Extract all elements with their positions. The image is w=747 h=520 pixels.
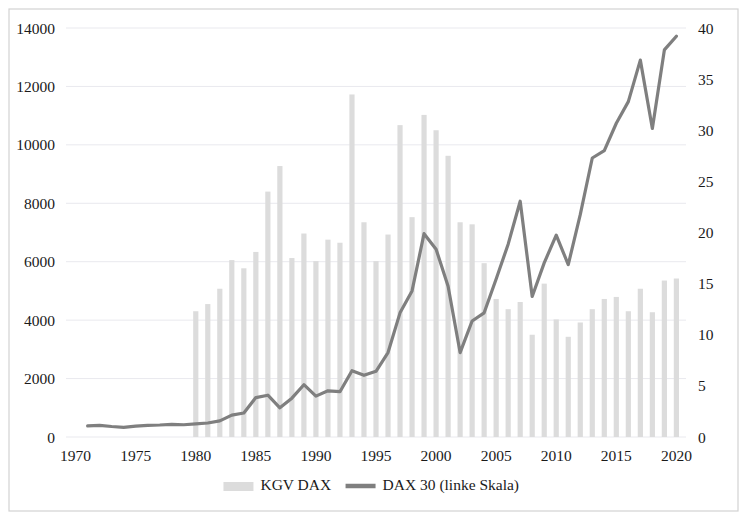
bar bbox=[325, 240, 330, 437]
bar bbox=[590, 309, 595, 437]
left-axis-tick-label: 6000 bbox=[24, 253, 55, 270]
bar bbox=[650, 312, 655, 437]
left-axis-tick-label: 8000 bbox=[24, 195, 55, 212]
bar bbox=[578, 322, 583, 437]
right-axis-tick-label: 10 bbox=[698, 326, 714, 343]
bar bbox=[530, 335, 535, 437]
left-axis-tick-label: 14000 bbox=[16, 20, 55, 37]
left-axis-tick-label: 12000 bbox=[16, 78, 55, 95]
bar bbox=[361, 222, 366, 437]
bar bbox=[301, 234, 306, 437]
bar bbox=[638, 289, 643, 437]
bar bbox=[542, 284, 547, 437]
bar bbox=[566, 337, 571, 437]
bar bbox=[674, 279, 679, 437]
x-axis-tick-label: 2000 bbox=[421, 447, 452, 464]
left-axis-tick-label: 2000 bbox=[24, 370, 55, 387]
x-axis-tick-label: 2010 bbox=[541, 447, 572, 464]
bar bbox=[602, 299, 607, 437]
bar bbox=[409, 217, 414, 437]
x-axis-tick-label: 1975 bbox=[120, 447, 151, 464]
bar bbox=[253, 252, 258, 437]
right-axis-tick-label: 40 bbox=[698, 20, 714, 37]
bar bbox=[337, 243, 342, 437]
right-axis-tick-label: 30 bbox=[698, 122, 714, 139]
right-axis-tick-label: 0 bbox=[698, 429, 706, 446]
bar bbox=[421, 115, 426, 437]
x-axis-tick-label: 1970 bbox=[60, 447, 91, 464]
bar bbox=[433, 130, 438, 437]
x-axis-tick-label: 1985 bbox=[240, 447, 271, 464]
x-axis-tick-label: 2005 bbox=[481, 447, 512, 464]
bar bbox=[494, 299, 499, 437]
bar bbox=[614, 297, 619, 437]
bar bbox=[470, 224, 475, 437]
bar bbox=[277, 166, 282, 437]
bar bbox=[229, 260, 234, 437]
x-axis-tick-label: 1995 bbox=[361, 447, 392, 464]
chart-figure: 02000400060008000100001200014000 0510152… bbox=[0, 0, 747, 520]
bar bbox=[349, 94, 354, 437]
bar bbox=[385, 235, 390, 437]
bar bbox=[217, 289, 222, 437]
bar bbox=[397, 125, 402, 437]
right-axis-tick-label: 35 bbox=[698, 71, 714, 88]
left-axis-tick-label: 4000 bbox=[24, 312, 55, 329]
bar bbox=[265, 192, 270, 437]
right-axis-tick-label: 15 bbox=[698, 275, 714, 292]
bar bbox=[626, 311, 631, 437]
right-axis-tick-label: 25 bbox=[698, 173, 714, 190]
legend-label: DAX 30 (linke Skala) bbox=[383, 476, 519, 494]
bar bbox=[554, 319, 559, 437]
bar bbox=[518, 302, 523, 437]
left-axis-tick-label: 0 bbox=[47, 429, 55, 446]
legend-swatch-bar bbox=[223, 482, 253, 491]
bar bbox=[373, 261, 378, 437]
left-axis-tick-label: 10000 bbox=[16, 136, 55, 153]
bar bbox=[313, 261, 318, 437]
x-axis-tick-label: 2015 bbox=[601, 447, 632, 464]
bar bbox=[506, 309, 511, 437]
chart-canvas: 02000400060008000100001200014000 0510152… bbox=[0, 0, 747, 520]
bar bbox=[458, 222, 463, 437]
x-axis-tick-label: 1980 bbox=[180, 447, 211, 464]
right-axis-tick-label: 20 bbox=[698, 224, 714, 241]
bar bbox=[205, 304, 210, 437]
x-axis-tick-label: 1990 bbox=[300, 447, 331, 464]
legend-label: KGV DAX bbox=[260, 476, 331, 493]
x-axis-tick-label: 2020 bbox=[661, 447, 692, 464]
bar bbox=[482, 263, 487, 437]
bar bbox=[193, 311, 198, 437]
bar bbox=[662, 281, 667, 437]
bar bbox=[289, 258, 294, 437]
right-axis-tick-label: 5 bbox=[698, 377, 706, 394]
